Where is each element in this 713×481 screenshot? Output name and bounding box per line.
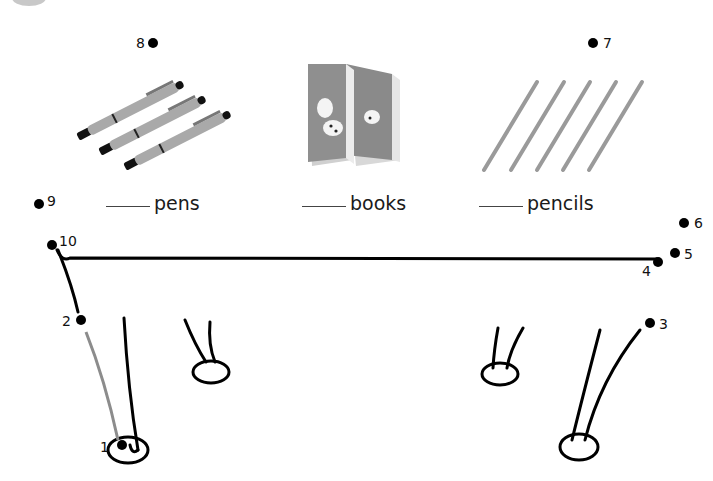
table-outline xyxy=(57,250,656,463)
dot-label-8: 8 xyxy=(136,36,145,50)
answer-blank-books[interactable] xyxy=(302,206,346,207)
caption-word: pencils xyxy=(527,192,594,214)
books-icon xyxy=(308,64,400,166)
pens-icon xyxy=(74,76,232,171)
dot-label-6: 6 xyxy=(694,216,703,230)
dot-label-2: 2 xyxy=(62,314,71,328)
dot-label-7: 7 xyxy=(603,36,612,50)
dot-8[interactable] xyxy=(148,38,158,48)
answer-blank-pens[interactable] xyxy=(106,206,150,207)
pencils-icon xyxy=(484,82,642,170)
caption-word: books xyxy=(350,192,406,214)
dot-2[interactable] xyxy=(76,315,86,325)
illustration-layer xyxy=(0,0,713,481)
caption-books: books xyxy=(302,192,406,214)
guide-line xyxy=(86,332,118,440)
dot-label-9: 9 xyxy=(47,194,56,208)
dot-4[interactable] xyxy=(653,257,663,267)
dot-label-10: 10 xyxy=(59,234,77,248)
dot-label-4: 4 xyxy=(642,264,651,278)
caption-pencils: pencils xyxy=(479,192,594,214)
dot-1[interactable] xyxy=(117,440,127,450)
caption-word: pens xyxy=(154,192,200,214)
dot-label-5: 5 xyxy=(684,247,693,261)
dot-7[interactable] xyxy=(588,38,598,48)
dot-label-3: 3 xyxy=(659,317,668,331)
caption-pens: pens xyxy=(106,192,200,214)
dot-9[interactable] xyxy=(34,199,44,209)
dot-label-1: 1 xyxy=(100,440,109,454)
dot-3[interactable] xyxy=(645,318,655,328)
answer-blank-pencils[interactable] xyxy=(479,206,523,207)
dot-10[interactable] xyxy=(47,240,57,250)
dot-5[interactable] xyxy=(670,248,680,258)
dot-6[interactable] xyxy=(679,218,689,228)
